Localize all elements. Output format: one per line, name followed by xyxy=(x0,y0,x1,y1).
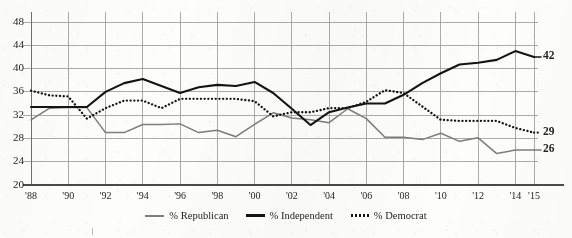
line-chart-plot xyxy=(0,0,572,238)
x-tick-label: '02 xyxy=(278,190,306,201)
series-line-independent xyxy=(31,51,534,125)
x-tick-label: '15 xyxy=(520,190,548,201)
legend-item-democrat[interactable]: % Democrat xyxy=(350,210,427,221)
x-tick-label: '06 xyxy=(352,190,380,201)
legend-item-independent[interactable]: % Independent xyxy=(246,210,333,221)
legend-label-republican: % Republican xyxy=(169,210,228,221)
legend-item-republican[interactable]: % Republican xyxy=(145,210,228,221)
y-tick-label: 28 xyxy=(2,131,24,143)
legend-swatch-independent-icon xyxy=(246,214,265,217)
legend-swatch-democrat-icon xyxy=(350,214,369,217)
y-tick-label: 24 xyxy=(2,154,24,166)
axis-lines xyxy=(23,12,564,185)
legend-label-independent: % Independent xyxy=(270,210,333,221)
end-value-label-independent: 42 xyxy=(543,49,555,61)
series-line-republican xyxy=(31,108,534,154)
end-value-label-republican: 26 xyxy=(543,142,555,154)
legend-swatch-republican-icon xyxy=(145,215,164,217)
y-tick-label: 40 xyxy=(2,61,24,73)
x-tick-label: '10 xyxy=(427,190,455,201)
y-tick-label: 32 xyxy=(2,108,24,120)
x-tick-label: '90 xyxy=(54,190,82,201)
legend-label-democrat: % Democrat xyxy=(374,210,427,221)
x-tick-label: '12 xyxy=(464,190,492,201)
x-tick-label: '04 xyxy=(315,190,343,201)
x-tick-label: '92 xyxy=(92,190,120,201)
end-value-label-democrat: 29 xyxy=(543,125,555,137)
y-tick-label: 20 xyxy=(2,178,24,190)
y-tick-label: 36 xyxy=(2,84,24,96)
y-tick-label: 48 xyxy=(2,15,24,27)
scan-artifact-mark xyxy=(92,228,93,235)
chart-legend: % Republican % Independent % Democrat xyxy=(0,210,572,221)
x-tick-label: '08 xyxy=(390,190,418,201)
x-tick-label: '00 xyxy=(241,190,269,201)
y-tick-label: 44 xyxy=(2,38,24,50)
series-line-democrat xyxy=(31,90,534,132)
x-tick-label: '94 xyxy=(129,190,157,201)
x-tick-label: '98 xyxy=(203,190,231,201)
x-tick-label: '96 xyxy=(166,190,194,201)
chart-page: 2024283236404448 '88'90'92'94'96'98'00'0… xyxy=(0,0,572,238)
x-tick-label: '88 xyxy=(17,190,45,201)
